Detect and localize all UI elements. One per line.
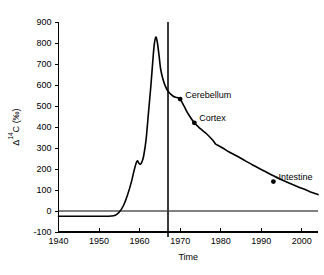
x-tick-label: 2000 — [292, 236, 312, 246]
chart-container: -1000100200300400500600700800900 1940195… — [0, 0, 324, 275]
x-tick-label: 1970 — [170, 236, 190, 246]
x-tick-label: 1980 — [211, 236, 231, 246]
marker-dot-cerebellum — [178, 97, 183, 102]
svg-text:Δ14C (‰): Δ14C (‰) — [7, 108, 22, 145]
x-axis-title: Time — [178, 252, 198, 262]
x-axis-tick-labels: 1940195019601970198019902000 — [48, 236, 311, 246]
y-tick-label: 0 — [46, 206, 51, 216]
marker-dot-cortex — [192, 120, 197, 125]
marker-label-intestine: Intestine — [278, 172, 312, 182]
y-tick-label: 700 — [36, 59, 51, 69]
y-tick-label: 900 — [36, 17, 51, 27]
x-tick-label: 1960 — [130, 236, 150, 246]
y-tick-label: 500 — [36, 101, 51, 111]
marker-dot-intestine — [271, 179, 276, 184]
y-axis-tick-labels: -1000100200300400500600700800900 — [33, 17, 51, 237]
x-tick-label: 1940 — [48, 236, 68, 246]
y-axis-tick-marks — [55, 22, 59, 232]
axis-spines — [59, 22, 319, 232]
y-tick-label: 400 — [36, 122, 51, 132]
marker-label-cortex: Cortex — [199, 113, 226, 123]
y-axis-title: Δ14C (‰) — [7, 108, 22, 145]
x-axis-tick-marks — [99, 228, 302, 232]
x-tick-label: 1950 — [89, 236, 109, 246]
marker-label-cerebellum: Cerebellum — [185, 90, 231, 100]
x-tick-label: 1990 — [251, 236, 271, 246]
y-tick-label: 300 — [36, 143, 51, 153]
y-tick-label: 200 — [36, 164, 51, 174]
bomb-pulse-line-chart: -1000100200300400500600700800900 1940195… — [0, 0, 324, 275]
y-tick-label: 100 — [36, 185, 51, 195]
y-tick-label: 800 — [36, 38, 51, 48]
data-point-markers: CerebellumCortexIntestine — [178, 90, 313, 184]
y-tick-label: 600 — [36, 80, 51, 90]
data-curve-atmospheric-c14 — [59, 37, 319, 216]
